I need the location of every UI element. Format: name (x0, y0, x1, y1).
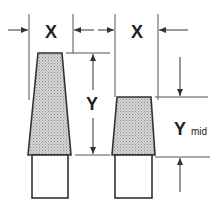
left-tapered-tip (28, 53, 71, 155)
right-x-label: X (131, 22, 143, 42)
right-tapered-tip (112, 97, 155, 155)
y-label: Y (86, 94, 98, 114)
ymid-subscript: mid (191, 126, 207, 137)
taper-measurement-diagram: X X Y Y mid (0, 0, 222, 206)
left-x-label: X (45, 22, 57, 42)
right-stem (115, 155, 152, 198)
left-stem (32, 155, 68, 198)
ymid-label: Y (174, 119, 186, 139)
